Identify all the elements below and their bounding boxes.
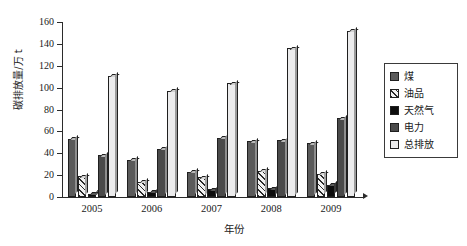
bar-coal-2009 <box>307 143 316 197</box>
bar-group <box>62 22 122 197</box>
legend-label-total: 总排放 <box>404 140 434 150</box>
bar-power-2009 <box>337 118 346 197</box>
bar-side-face <box>85 173 88 194</box>
bar-side-face <box>175 88 178 195</box>
legend-item-gas[interactable]: 天然气 <box>390 102 453 119</box>
bar-total-2007 <box>227 83 236 197</box>
x-axis-label-2009: 2009 <box>301 203 361 214</box>
bar-group <box>301 22 361 197</box>
y-axis-tick-label: 80 <box>28 105 54 115</box>
legend-swatch-oil-icon <box>390 89 399 98</box>
x-axis-label-2005: 2005 <box>62 203 122 214</box>
bar-total-2009 <box>347 31 356 197</box>
y-axis-tick-label: 160 <box>28 17 54 27</box>
bar-gas-2005 <box>88 194 97 197</box>
legend: 煤油品天然气电力总排放 <box>384 63 458 158</box>
bar-oil-2006 <box>137 182 146 197</box>
plot-area <box>62 22 361 197</box>
bar-power-2007 <box>217 138 226 197</box>
y-axis-tick-label: 140 <box>28 39 54 49</box>
legend-item-coal[interactable]: 煤 <box>390 68 453 85</box>
bar-oil-2005 <box>78 176 87 197</box>
bar-group <box>241 22 301 197</box>
bar-oil-2009 <box>317 174 326 197</box>
bar-total-2006 <box>167 91 176 197</box>
y-axis-tick-label: 100 <box>28 83 54 93</box>
bar-side-face <box>115 72 118 194</box>
bar-total-2008 <box>287 48 296 197</box>
bar-gas-2009 <box>327 185 336 197</box>
legend-label-power: 电力 <box>404 123 424 133</box>
y-axis-tick-label: 0 <box>28 192 54 202</box>
bar-group <box>182 22 242 197</box>
y-axis-tick <box>57 197 62 198</box>
bar-coal-2005 <box>68 139 77 197</box>
bar-side-face <box>295 45 298 194</box>
x-axis-line <box>62 197 365 198</box>
x-axis-title: 年份 <box>0 221 467 236</box>
bar-chart: 020406080100120140160 碳排放量/万 t 200520062… <box>0 0 467 246</box>
bar-coal-2007 <box>187 172 196 197</box>
bar-gas-2008 <box>267 188 276 197</box>
y-axis-tick-label: 120 <box>28 61 54 71</box>
y-axis-tick-label: 40 <box>28 148 54 158</box>
bar-group <box>122 22 182 197</box>
legend-item-power[interactable]: 电力 <box>390 119 453 136</box>
legend-label-coal: 煤 <box>404 72 414 82</box>
y-axis-tick-label: 20 <box>28 170 54 180</box>
bar-side-face <box>354 28 357 195</box>
legend-label-oil: 油品 <box>404 89 424 99</box>
bar-side-face <box>235 80 238 194</box>
bar-power-2008 <box>277 140 286 197</box>
bar-coal-2008 <box>247 141 256 197</box>
legend-item-total[interactable]: 总排放 <box>390 136 453 153</box>
bar-power-2006 <box>157 149 166 197</box>
x-axis-arrow-icon <box>363 193 368 199</box>
bar-total-2005 <box>108 76 117 197</box>
x-axis-label-2006: 2006 <box>122 203 182 214</box>
y-axis-tick-label: 60 <box>28 126 54 136</box>
x-axis-label-2008: 2008 <box>241 203 301 214</box>
bar-gas-2006 <box>147 192 156 197</box>
legend-swatch-power-icon <box>390 123 399 132</box>
y-axis-title: 碳排放量/万 t <box>10 25 25 135</box>
legend-swatch-total-icon <box>390 140 399 149</box>
x-axis-label-2007: 2007 <box>182 203 242 214</box>
bar-oil-2008 <box>257 171 266 197</box>
legend-swatch-coal-icon <box>390 72 399 81</box>
bar-power-2005 <box>98 155 107 197</box>
legend-label-gas: 天然气 <box>404 106 434 116</box>
bar-oil-2007 <box>197 177 206 197</box>
legend-item-oil[interactable]: 油品 <box>390 85 453 102</box>
bar-gas-2007 <box>207 189 216 197</box>
legend-swatch-gas-icon <box>390 106 399 115</box>
bar-coal-2006 <box>127 160 136 197</box>
